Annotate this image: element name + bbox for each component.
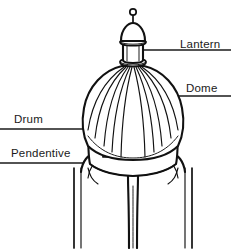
- finial-ball: [130, 9, 136, 15]
- dome-diagram-canvas: Lantern Dome Drum Pendentive: [0, 0, 231, 249]
- dome-diagram-figure: Lantern Dome Drum Pendentive: [0, 0, 231, 249]
- ribbed-dome-assembly: [83, 66, 184, 160]
- label-pendentive: Pendentive: [11, 147, 71, 159]
- lantern-cap-dome: [121, 23, 145, 41]
- label-lantern: Lantern: [180, 38, 220, 50]
- pier-center-right-line: [137, 176, 138, 248]
- pier-center-left-line: [128, 176, 129, 248]
- lantern-body: [123, 44, 143, 63]
- lantern-assembly: [120, 9, 146, 67]
- label-drum: Drum: [14, 113, 43, 125]
- label-dome: Dome: [186, 82, 217, 94]
